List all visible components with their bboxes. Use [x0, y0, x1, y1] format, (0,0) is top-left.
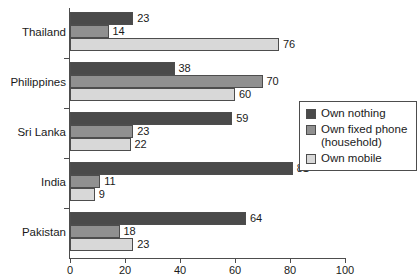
legend-label-line1: Own fixed phone: [321, 123, 407, 135]
bar-value-label: 14: [113, 25, 125, 38]
legend-label-own-mobile: Own mobile: [321, 152, 382, 165]
bar-value-label: 11: [104, 175, 115, 188]
x-axis-tick-label: 20: [105, 264, 145, 277]
bar: [70, 125, 133, 138]
bar: [70, 25, 109, 38]
legend-item-own-mobile: Own mobile: [306, 152, 410, 165]
x-axis-tick-label: 40: [160, 264, 200, 277]
legend-label-own-fixed-phone: Own fixed phone(household): [321, 123, 407, 149]
y-axis-line: [69, 8, 70, 258]
category-label: India: [2, 176, 66, 189]
bar-value-label: 18: [124, 225, 136, 238]
bar: [70, 88, 235, 101]
bar-value-label: 23: [137, 238, 149, 251]
y-axis-tick: [64, 58, 70, 59]
y-axis-tick: [64, 208, 70, 209]
legend-swatch-own-nothing: [306, 109, 316, 119]
x-axis-tick: [70, 259, 71, 263]
bar-value-label: 64: [250, 212, 262, 225]
y-axis-tick: [64, 158, 70, 159]
x-axis-tick: [235, 259, 236, 263]
bar-value-label: 23: [137, 125, 149, 138]
x-axis-tick-label: 80: [270, 264, 310, 277]
bar-value-label: 9: [99, 188, 105, 201]
category-label: Philippines: [2, 76, 66, 89]
bar: [70, 62, 175, 75]
legend-label-own-nothing: Own nothing: [321, 107, 386, 120]
legend-swatch-own-mobile: [306, 154, 316, 164]
bar-value-label: 59: [236, 112, 248, 125]
bar: [70, 75, 263, 88]
bar: [70, 38, 279, 51]
bar: [70, 175, 100, 188]
legend-swatch-own-fixed-phone: [306, 125, 316, 135]
x-axis-tick: [345, 259, 346, 263]
bar: [70, 225, 120, 238]
bar: [70, 212, 246, 225]
category-label: Sri Lanka: [2, 126, 66, 139]
chart-legend: Own nothing Own fixed phone(household) O…: [299, 101, 417, 171]
bar: [70, 162, 293, 175]
legend-item-own-fixed-phone: Own fixed phone(household): [306, 123, 410, 149]
bar: [70, 112, 232, 125]
category-axis-labels: ThailandPhilippinesSri LankaIndiaPakista…: [0, 0, 66, 279]
bar-value-label: 23: [137, 12, 149, 25]
bar: [70, 12, 133, 25]
x-axis-tick: [180, 259, 181, 263]
category-label: Thailand: [2, 26, 66, 39]
x-axis-tick-label: 0: [50, 264, 90, 277]
legend-label-line2: (household): [321, 136, 382, 148]
bar-value-label: 22: [135, 138, 147, 151]
x-axis-tick: [290, 259, 291, 263]
category-label: Pakistan: [2, 226, 66, 239]
bar: [70, 138, 131, 151]
bar-value-label: 60: [239, 88, 251, 101]
x-axis-line: [69, 258, 346, 259]
bar-value-label: 38: [179, 62, 191, 75]
x-axis-tick-label: 60: [215, 264, 255, 277]
bar-value-label: 70: [267, 75, 279, 88]
bar-value-label: 76: [283, 38, 295, 51]
x-axis-tick: [125, 259, 126, 263]
x-axis-tick-label: 100: [325, 264, 365, 277]
bar: [70, 238, 133, 251]
bar-chart: ThailandPhilippinesSri LankaIndiaPakista…: [0, 0, 419, 279]
bar: [70, 188, 95, 201]
y-axis-tick: [64, 108, 70, 109]
legend-item-own-nothing: Own nothing: [306, 107, 410, 120]
